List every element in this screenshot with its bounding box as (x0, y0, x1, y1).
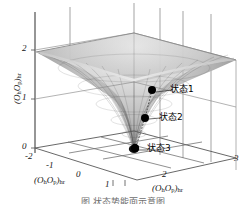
z-tick-0: 0 (22, 142, 27, 151)
marker-state-3 (131, 144, 139, 152)
figure-3d-surface-plot: (OhOp)hr 2 1 0 -2 -1 0 1 2 3 (OhOp)hr (O… (0, 0, 246, 204)
x-left-axis-label: (OhOp)hr (34, 176, 65, 186)
annotation-state-1: 状态1 (170, 85, 194, 94)
x-left-tick-1: 1 (105, 180, 110, 189)
floor-axis-ticks (113, 180, 125, 186)
z-tick-1: 1 (22, 93, 27, 102)
x-right-tick-3: 3 (234, 154, 239, 163)
x-right-axis-label: (OhOp)hr (152, 184, 183, 194)
x-right-tick-2: 2 (162, 170, 167, 179)
annotation-state-3: 状态3 (147, 144, 171, 153)
plot-canvas (0, 0, 246, 204)
annotation-state-2: 状态2 (159, 113, 183, 122)
figure-caption: 图 状态势能面示意图 (0, 195, 246, 204)
marker-state-2 (141, 114, 149, 122)
z-axis-ticks (31, 50, 35, 148)
surface-funnel (36, 33, 236, 153)
x-left-tick-minus2: -2 (25, 152, 33, 161)
marker-state-1 (148, 86, 156, 94)
x-left-tick-minus1: -1 (46, 161, 54, 170)
z-tick-2: 2 (22, 44, 27, 53)
x-left-tick-0: 0 (76, 170, 81, 179)
